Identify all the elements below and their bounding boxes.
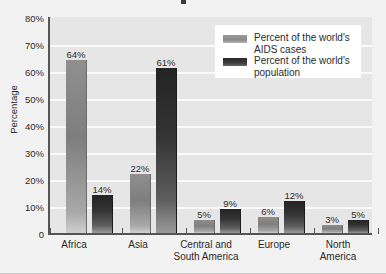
legend-label-population: Percent of the world'spopulation (254, 55, 366, 78)
bar-label-central-south-america-aids-cases: 5% (197, 210, 211, 220)
bar-group-africa: 64% 14% (60, 17, 124, 233)
legend-swatch-population-icon (223, 58, 247, 66)
bar-north-america-aids-cases[interactable]: 3% (322, 225, 343, 233)
x-tick-separator (378, 228, 379, 234)
y-tick-10: 10% (25, 203, 44, 213)
bar-asia-aids-cases[interactable]: 22% (130, 174, 151, 233)
x-label-asia: Asia (106, 239, 170, 251)
x-tick-separator (314, 228, 315, 234)
x-label-europe: Europe (242, 239, 306, 251)
legend-label-aids-cases: Percent of the world'sAIDS cases (254, 32, 366, 55)
bar-north-america-population[interactable]: 5% (348, 220, 369, 233)
y-tick-80: 80% (25, 14, 44, 24)
y-axis: Percentage 80% 70% 60% 50% 40% 30% 20% 1… (0, 0, 44, 274)
bar-label-asia-population: 61% (156, 58, 175, 68)
cropped-title-fragment (181, 0, 186, 4)
bar-central-south-america-population[interactable]: 9% (220, 209, 241, 233)
x-label-africa: Africa (42, 239, 106, 251)
bar-label-north-america-aids-cases: 3% (325, 215, 339, 225)
x-tick-separator (122, 228, 123, 234)
bar-label-europe-aids-cases: 6% (261, 207, 275, 217)
y-tick-70: 70% (25, 41, 44, 51)
y-tick-50: 50% (25, 95, 44, 105)
bar-chart-figure: Percentage 80% 70% 60% 50% 40% 30% 20% 1… (0, 0, 386, 274)
legend-swatch-aids-cases-icon (223, 35, 247, 43)
bar-label-europe-population: 12% (284, 191, 303, 201)
y-tick-20: 20% (25, 176, 44, 186)
bar-label-north-america-population: 5% (351, 210, 365, 220)
bar-label-asia-aids-cases: 22% (130, 164, 149, 174)
y-tick-30: 30% (25, 149, 44, 159)
bar-label-africa-population: 14% (92, 185, 111, 195)
x-label-central-south-america: Central andSouth America (166, 239, 246, 262)
bar-asia-population[interactable]: 61% (156, 68, 177, 233)
bar-africa-aids-cases[interactable]: 64% (66, 60, 87, 233)
legend: Percent of the world'sAIDS cases Percent… (215, 25, 361, 78)
y-axis-title: Percentage (8, 70, 19, 150)
x-tick-separator (250, 228, 251, 234)
bar-label-central-south-america-population: 9% (223, 199, 237, 209)
y-tick-40: 40% (25, 122, 44, 132)
bar-group-asia: 22% 61% (124, 17, 188, 233)
bar-label-africa-aids-cases: 64% (66, 50, 85, 60)
x-tick-separator (50, 228, 51, 234)
y-tick-60: 60% (25, 68, 44, 78)
x-label-north-america: NorthAmerica (306, 239, 370, 262)
bar-central-south-america-aids-cases[interactable]: 5% (194, 220, 215, 233)
x-tick-separator (186, 228, 187, 234)
bar-africa-population[interactable]: 14% (92, 195, 113, 233)
bar-europe-population[interactable]: 12% (284, 201, 305, 233)
bar-europe-aids-cases[interactable]: 6% (258, 217, 279, 233)
